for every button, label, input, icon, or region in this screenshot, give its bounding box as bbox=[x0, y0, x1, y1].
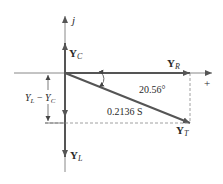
difference-label: YL − YC bbox=[25, 92, 56, 105]
yc-label: YC bbox=[69, 47, 83, 61]
yr-label: YR bbox=[167, 57, 180, 71]
real-axis-plus-label: + bbox=[204, 77, 210, 89]
angle-label: 20.56° bbox=[139, 84, 166, 95]
yt-magnitude-label: 0.2136 S bbox=[107, 106, 143, 117]
yt-label: YT bbox=[176, 124, 189, 138]
yl-label: YL bbox=[70, 149, 83, 163]
imaginary-axis-label: j bbox=[70, 14, 75, 26]
angle-arc bbox=[99, 75, 104, 87]
phasor-diagram: j + YC YR YL YT 0.2136 S 20.56° YL − YC bbox=[0, 0, 223, 184]
